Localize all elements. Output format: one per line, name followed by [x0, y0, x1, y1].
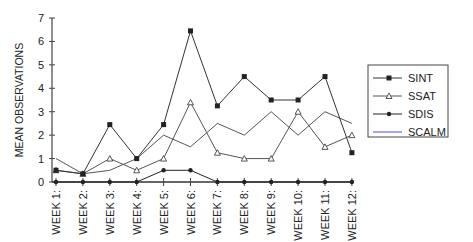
y-axis: 01234567	[38, 12, 55, 188]
circle-marker	[215, 180, 219, 184]
y-tick-label: 3	[38, 106, 44, 118]
y-tick-label: 2	[38, 129, 44, 141]
series-line	[56, 170, 352, 182]
circle-marker	[188, 168, 192, 172]
circle-marker	[54, 180, 58, 184]
x-tick-label: WEEK 5:	[158, 190, 170, 235]
triangle-marker	[295, 109, 301, 115]
x-tick-label: WEEK 6:	[185, 190, 197, 235]
triangle-marker	[161, 156, 167, 162]
legend-label: SCALM	[408, 126, 446, 138]
y-tick-label: 6	[38, 35, 44, 47]
legend-label: SSAT	[408, 90, 436, 102]
circle-marker	[269, 180, 273, 184]
triangle-marker	[107, 156, 113, 162]
square-marker	[296, 98, 301, 103]
y-tick-label: 1	[38, 153, 44, 165]
y-tick-label: 4	[38, 82, 44, 94]
x-tick-label: WEEK 2:	[77, 190, 89, 235]
legend-label: SDIS	[408, 108, 434, 120]
square-marker	[215, 103, 220, 108]
circle-marker	[350, 180, 354, 184]
square-marker	[349, 150, 354, 155]
square-marker	[161, 122, 166, 127]
square-marker	[387, 76, 392, 81]
x-tick-label: WEEK 1:	[50, 190, 62, 235]
x-tick-label: WEEK 11:	[319, 190, 331, 240]
y-tick-label: 5	[38, 59, 44, 71]
square-marker	[54, 168, 59, 173]
square-marker	[134, 156, 139, 161]
square-marker	[80, 171, 85, 176]
series-sint	[54, 28, 355, 176]
triangle-marker	[188, 99, 194, 105]
series-ssat	[53, 99, 355, 176]
circle-marker	[161, 168, 165, 172]
x-tick-label: WEEK 7:	[211, 190, 223, 235]
series-layer	[53, 28, 355, 184]
series-line	[56, 31, 352, 174]
triangle-marker	[349, 132, 355, 138]
y-tick-label: 7	[38, 12, 44, 24]
x-tick-label: WEEK 12:	[346, 190, 358, 241]
x-tick-label: WEEK 3:	[104, 190, 116, 235]
x-tick-label: WEEK 4:	[131, 190, 143, 235]
triangle-marker	[214, 150, 220, 156]
square-marker	[188, 28, 193, 33]
x-axis: WEEK 1:WEEK 2:WEEK 3:WEEK 4:WEEK 5:WEEK …	[50, 178, 358, 241]
square-marker	[107, 122, 112, 127]
circle-marker	[81, 180, 85, 184]
series-line	[56, 102, 352, 173]
triangle-marker	[134, 167, 140, 173]
y-tick-label: 0	[38, 176, 44, 188]
x-tick-label: WEEK 9:	[265, 190, 277, 235]
circle-marker	[323, 180, 327, 184]
legend-label: SINT	[408, 72, 433, 84]
x-tick-label: WEEK 10:	[292, 190, 304, 241]
circle-marker	[242, 180, 246, 184]
legend: SINTSSATSDISSCALM	[368, 65, 448, 138]
circle-marker	[135, 180, 139, 184]
square-marker	[323, 74, 328, 79]
circle-marker	[108, 180, 112, 184]
y-axis-title: MEAN OBSERVATIONS	[13, 43, 25, 157]
circle-marker	[296, 180, 300, 184]
line-chart: 01234567 WEEK 1:WEEK 2:WEEK 3:WEEK 4:WEE…	[0, 0, 473, 242]
x-tick-label: WEEK 8:	[238, 190, 250, 235]
square-marker	[269, 98, 274, 103]
circle-marker	[387, 112, 391, 116]
square-marker	[242, 74, 247, 79]
